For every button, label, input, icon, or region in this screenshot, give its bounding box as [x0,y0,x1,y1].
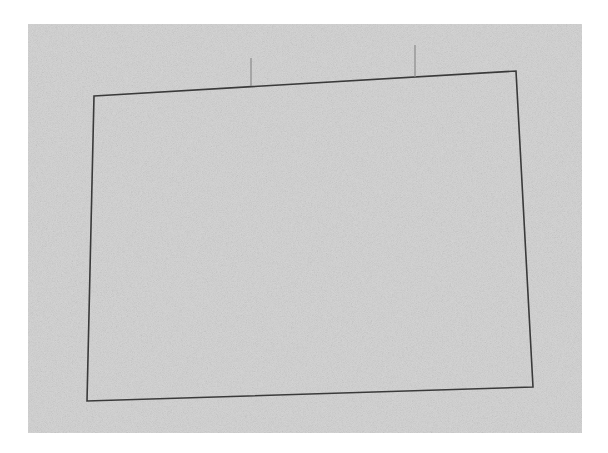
grainy-background-panel [28,24,582,433]
diagram-canvas [0,0,608,453]
